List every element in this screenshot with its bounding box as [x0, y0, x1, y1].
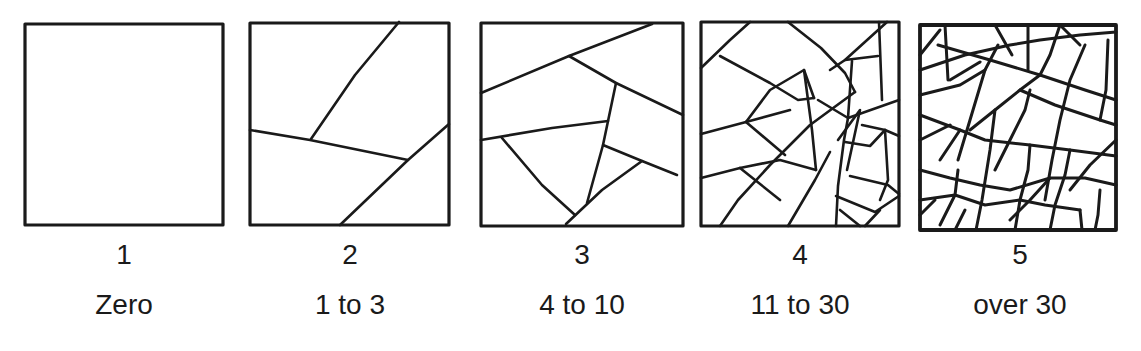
crack-square-4	[690, 0, 910, 230]
rating-label: 4 to 10	[472, 288, 692, 322]
rating-label: over 30	[910, 288, 1130, 322]
rating-label: 11 to 30	[690, 288, 910, 322]
rating-number: 2	[240, 238, 460, 272]
panel-4-eleven-to-thirty: 4 11 to 30	[690, 0, 910, 351]
rating-number: 1	[14, 238, 234, 272]
panel-5-over-thirty: 5 over 30	[910, 0, 1130, 351]
rating-label: Zero	[14, 288, 234, 322]
crack-lines	[701, 22, 899, 226]
crack-square-2	[240, 0, 460, 230]
crack-lines	[481, 24, 683, 224]
rating-number: 4	[690, 238, 910, 272]
rating-number: 5	[910, 238, 1130, 272]
crack-lines	[920, 25, 1116, 230]
crack-square-5	[910, 0, 1130, 232]
panel-2-one-to-three: 2 1 to 3	[240, 0, 460, 351]
rating-number: 3	[472, 238, 692, 272]
crack-square-3	[472, 0, 692, 230]
rating-label: 1 to 3	[240, 288, 460, 322]
crack-lines	[250, 22, 449, 225]
panel-1-zero: 1 Zero	[14, 0, 234, 351]
panel-3-four-to-ten: 3 4 to 10	[472, 0, 692, 351]
crack-square-1	[14, 0, 234, 230]
